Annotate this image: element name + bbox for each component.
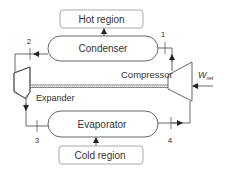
state-label-4: 4 <box>168 136 173 145</box>
condenser-label: Condenser <box>79 43 129 54</box>
cold-region-label: Cold region <box>74 150 125 161</box>
pipe-4 <box>158 101 190 123</box>
shaft <box>30 85 168 88</box>
state-label-3: 3 <box>35 136 40 145</box>
cold-region: Cold region <box>59 146 143 164</box>
hot-region-label: Hot region <box>78 14 124 25</box>
pipe-2 <box>15 54 48 73</box>
compressor-label: Compressor <box>121 69 173 80</box>
state-label-1: 1 <box>161 30 166 39</box>
expander-label: Expander <box>36 93 75 103</box>
evaporator: Evaporator <box>48 111 158 137</box>
refrigeration-cycle-diagram: Hot region Condenser 1 2 Expander Compre… <box>0 0 227 174</box>
condenser: Condenser <box>48 36 158 61</box>
evaporator-label: Evaporator <box>78 119 128 130</box>
work-input-label: Wnet <box>198 70 214 81</box>
state-label-2: 2 <box>27 37 32 46</box>
hot-region: Hot region <box>60 10 143 28</box>
